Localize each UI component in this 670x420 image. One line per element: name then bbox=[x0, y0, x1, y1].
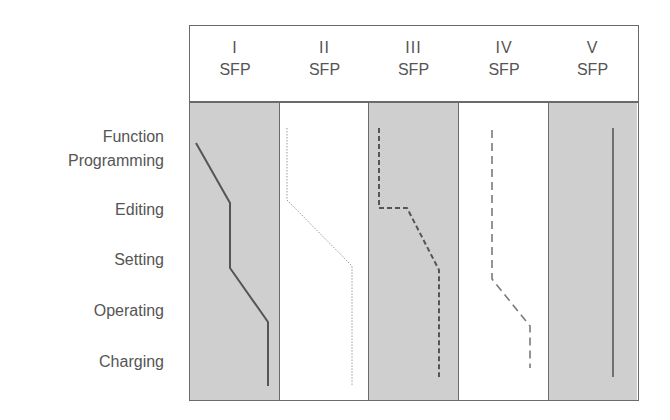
row-label-setting: Setting bbox=[114, 251, 164, 269]
column-sub-label: SFP bbox=[368, 60, 459, 80]
column-sub-label: SFP bbox=[548, 60, 637, 80]
column-numeral: II bbox=[280, 38, 369, 58]
row-label-editing: Editing bbox=[115, 201, 164, 219]
row-label-operating: Operating bbox=[94, 302, 164, 320]
column-header-i: I SFP bbox=[190, 26, 280, 101]
column-header-v: V SFP bbox=[548, 26, 637, 101]
row-label-programming: Programming bbox=[68, 152, 164, 170]
column-numeral: III bbox=[368, 38, 459, 58]
row-label-charging: Charging bbox=[99, 353, 164, 371]
column-numeral: IV bbox=[459, 38, 549, 58]
column-ii-body bbox=[280, 102, 369, 400]
header-divider bbox=[190, 101, 638, 103]
column-sub-label: SFP bbox=[459, 60, 549, 80]
column-iv-body bbox=[459, 102, 549, 400]
column-header-ii: II SFP bbox=[280, 26, 369, 101]
column-iii-body bbox=[368, 102, 459, 400]
column-header-iv: IV SFP bbox=[459, 26, 549, 101]
column-numeral: V bbox=[548, 38, 637, 58]
column-v-body bbox=[548, 102, 637, 400]
diagram-frame: I SFP II SFP III SFP IV SFP V SFP bbox=[189, 25, 639, 401]
column-numeral: I bbox=[190, 38, 280, 58]
column-i-body bbox=[190, 102, 280, 400]
column-sub-label: SFP bbox=[190, 60, 280, 80]
column-header-iii: III SFP bbox=[368, 26, 459, 101]
row-header-function: Function bbox=[103, 128, 164, 146]
column-sub-label: SFP bbox=[280, 60, 369, 80]
